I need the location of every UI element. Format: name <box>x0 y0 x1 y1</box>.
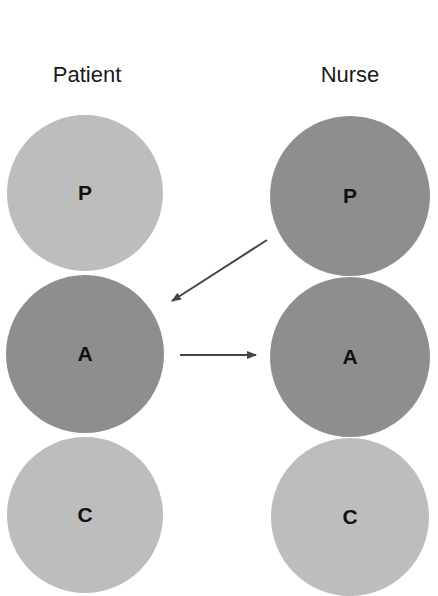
nurse-parent-to-patient-adult-arrow <box>172 240 267 301</box>
